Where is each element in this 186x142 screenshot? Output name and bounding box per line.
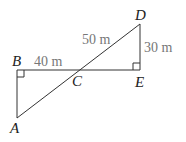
label-E: E (134, 74, 144, 90)
measure-CD: 50 m (82, 32, 111, 47)
right-angle-marker-E (133, 63, 140, 70)
label-A: A (9, 120, 20, 136)
measure-BC: 40 m (34, 54, 63, 69)
measure-DE: 30 m (144, 40, 173, 55)
segment-AD (17, 24, 140, 118)
right-angle-marker-B (17, 70, 24, 77)
label-C: C (72, 73, 83, 89)
label-B: B (12, 53, 21, 69)
geometry-diagram: B A C D E 40 m 50 m 30 m (0, 0, 186, 142)
label-D: D (134, 7, 146, 23)
